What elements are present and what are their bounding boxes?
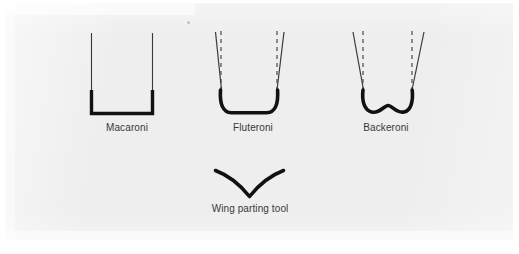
fluteroni-right-side-line (277, 32, 284, 90)
backeroni-bottom-shape (363, 90, 413, 112)
figure-canvas: Macaroni Fluteroni Backeroni Wing partin… (0, 0, 519, 254)
label-fluteroni: Fluteroni (233, 122, 273, 133)
label-backeroni: Backeroni (363, 122, 408, 133)
macaroni-bottom-shape (92, 90, 153, 114)
label-wing-parting-tool: Wing parting tool (212, 203, 289, 214)
diagram-macaroni (92, 33, 153, 114)
backeroni-right-side-line (412, 32, 424, 90)
backeroni-left-side-line (353, 32, 364, 90)
diagram-fluteroni (216, 31, 285, 113)
fluteroni-bottom-shape (220, 90, 277, 113)
diagram-backeroni (353, 31, 424, 112)
diagram-wing-parting-tool (216, 171, 284, 197)
label-macaroni: Macaroni (106, 122, 148, 133)
wing-parting-tool-shape (216, 171, 284, 197)
